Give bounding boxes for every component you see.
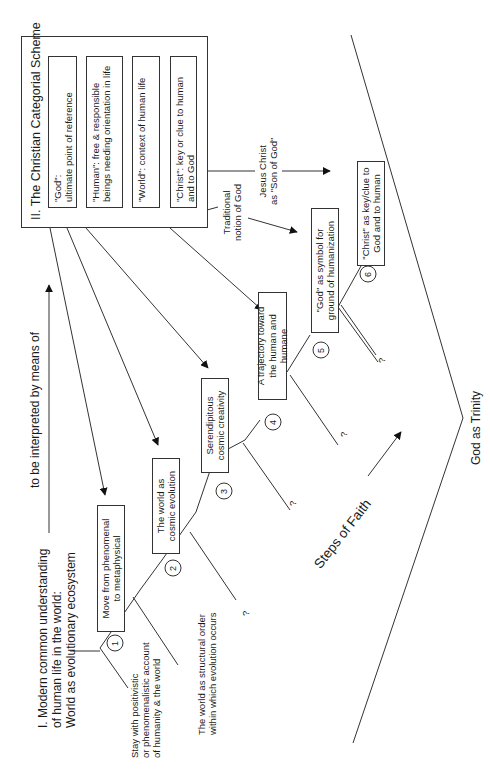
step-number-2: 2 <box>168 566 179 571</box>
interpret-label: to be interpreted by means of <box>28 332 42 488</box>
alt-label-4: ? <box>287 501 298 506</box>
alt-label-3: ? <box>240 611 251 616</box>
category-human: "Human": free & responsible beings needi… <box>86 56 123 208</box>
modern-understanding-label: I. Modern common understanding of human … <box>36 549 78 728</box>
step-box-5: "God" as symbol for ground of humanizati… <box>311 208 339 333</box>
step-number-3: 3 <box>219 489 230 494</box>
chevron-line <box>351 35 463 743</box>
jesus-christ-label: Jesus Christ as "Son of God" <box>257 138 279 205</box>
traditional-notion-label: Traditional notion of God <box>221 184 243 241</box>
step-number-4: 4 <box>268 420 279 425</box>
category-world-term: "World": <box>136 168 147 202</box>
step-box-3: Serendipitous cosmic creativity <box>201 378 229 473</box>
step-box-2: The world as cosmic evolution <box>152 458 180 554</box>
diagram-canvas: II. The Christian Categorial Scheme "God… <box>0 0 490 772</box>
category-christ: "Christ": key or clue to human and to Go… <box>170 56 197 208</box>
category-human-term: "Human": <box>90 162 101 202</box>
step-box-4: A trajectory toward the human and humane <box>258 292 287 400</box>
category-god: "God": ultimate point of reference <box>48 56 77 208</box>
step-box-1: Move from phenomenal to metaphysical <box>97 505 125 632</box>
alt-label-2: The world as structural order within whi… <box>196 612 218 735</box>
category-god-term: "God": <box>52 62 63 202</box>
step-number-1: 1 <box>110 641 121 646</box>
alt-label-5: ? <box>338 432 349 437</box>
alt-label-6: ? <box>376 358 387 363</box>
category-world: "World": context of human life <box>132 56 160 208</box>
category-god-desc: ultimate point of reference <box>63 62 74 202</box>
step-number-6: 6 <box>363 272 374 277</box>
category-christ-term: "Christ": <box>174 168 185 202</box>
god-as-trinity-label: God as Trinity <box>469 391 483 465</box>
step-number-5: 5 <box>316 348 327 353</box>
scheme-title: II. The Christian Categorial Scheme <box>29 22 44 220</box>
step-box-6: "Christ" as key/clue to God and to human <box>357 161 385 266</box>
alt-label-1: Stay with positivistic or phenomenalisti… <box>129 642 163 758</box>
category-world-desc: context of human life <box>136 78 147 166</box>
